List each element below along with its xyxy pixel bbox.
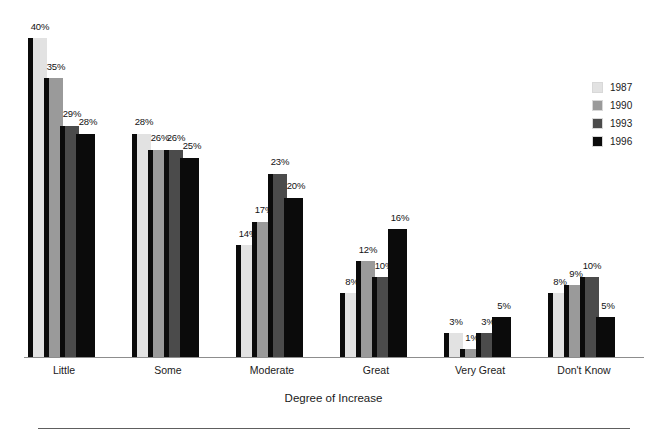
plot-area: 40%35%29%28%28%26%26%25%14%17%23%20%8%12…: [0, 0, 667, 360]
legend-label: 1990: [610, 101, 632, 111]
bar-front-face: [497, 317, 511, 357]
category-label: Very Great: [455, 364, 505, 376]
bar-value-label: 40%: [31, 22, 50, 32]
bar[interactable]: 5%: [497, 317, 511, 357]
legend-label: 1996: [610, 137, 632, 147]
axis-baseline: [24, 357, 644, 358]
bar[interactable]: 5%: [601, 317, 615, 357]
category-label: Little: [53, 364, 75, 376]
bar-front-face: [185, 158, 199, 357]
bar-front-face: [601, 317, 615, 357]
chart-legend: 1987199019931996: [592, 80, 658, 152]
category-label: Moderate: [250, 364, 294, 376]
bar-front-face: [289, 198, 303, 357]
legend-swatch-icon: [592, 136, 603, 147]
bar-value-label: 12%: [359, 245, 378, 255]
legend-item[interactable]: 1987: [592, 80, 658, 95]
bar-group: 14%17%23%20%: [241, 0, 305, 360]
legend-swatch-icon: [592, 100, 603, 111]
bar-value-label: 28%: [135, 117, 154, 127]
bar-chart-figure: 40%35%29%28%28%26%26%25%14%17%23%20%8%12…: [0, 0, 667, 438]
bar-group: 8%12%10%16%: [345, 0, 409, 360]
legend-swatch-icon: [592, 82, 603, 93]
bar[interactable]: 16%: [393, 229, 407, 357]
bar-value-label: 5%: [497, 301, 511, 311]
bar-value-label: 3%: [449, 317, 463, 327]
bar-group: 40%35%29%28%: [33, 0, 97, 360]
bar-value-label: 20%: [287, 181, 306, 191]
category-label: Great: [363, 364, 389, 376]
bar-value-label: 28%: [79, 117, 98, 127]
bar-front-face: [81, 134, 95, 357]
bar-value-label: 35%: [47, 62, 66, 72]
bar-value-label: 23%: [271, 157, 290, 167]
category-label: Don't Know: [557, 364, 610, 376]
legend-label: 1987: [610, 83, 632, 93]
bar-value-label: 25%: [183, 141, 202, 151]
bar-value-label: 10%: [583, 261, 602, 271]
x-axis-title: Degree of Increase: [0, 392, 667, 404]
legend-label: 1993: [610, 119, 632, 129]
bar-value-label: 5%: [601, 301, 615, 311]
bar-value-label: 16%: [391, 213, 410, 223]
category-label: Some: [154, 364, 181, 376]
bar[interactable]: 25%: [185, 158, 199, 357]
bar-group: 8%9%10%5%: [553, 0, 617, 360]
footer-rule: [38, 428, 630, 429]
legend-item[interactable]: 1990: [592, 98, 658, 113]
category-axis: LittleSomeModerateGreatVery GreatDon't K…: [0, 364, 667, 384]
legend-item[interactable]: 1993: [592, 116, 658, 131]
bar-group: 3%1%3%5%: [449, 0, 513, 360]
bar[interactable]: 28%: [81, 134, 95, 357]
legend-item[interactable]: 1996: [592, 134, 658, 149]
bar-front-face: [393, 229, 407, 357]
legend-swatch-icon: [592, 118, 603, 129]
bar-group: 28%26%26%25%: [137, 0, 201, 360]
bar[interactable]: 20%: [289, 198, 303, 357]
